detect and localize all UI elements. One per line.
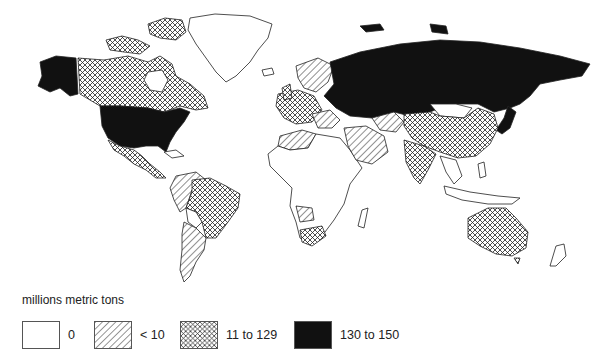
legend-label: 130 to 150	[340, 328, 399, 342]
region-greenland	[188, 14, 272, 82]
region-philippines	[478, 162, 486, 178]
swatch-solid-black	[294, 321, 332, 349]
region-argentina-chile	[180, 222, 206, 282]
region-caribbean	[164, 150, 184, 158]
region-canada-arctic	[148, 18, 186, 40]
swatch-crosshatch	[180, 321, 218, 349]
region-alaska	[38, 56, 78, 96]
region-australia	[468, 208, 528, 256]
region-southern-europe	[312, 110, 340, 128]
region-indonesia	[444, 186, 520, 204]
world-map	[0, 0, 606, 290]
region-uk	[282, 84, 292, 100]
region-south-africa	[300, 226, 326, 246]
region-madagascar	[358, 208, 368, 228]
legend-label: < 10	[140, 328, 165, 342]
legend-label: 11 to 129	[226, 328, 277, 342]
swatch-diagonal-hatch	[94, 321, 132, 349]
region-tasmania	[514, 258, 520, 264]
legend-title: millions metric tons	[22, 293, 124, 307]
region-russian-arctic-islands-2	[430, 24, 448, 34]
region-russian-arctic-islands	[360, 24, 384, 32]
region-new-zealand	[550, 244, 566, 266]
region-scandinavia	[296, 58, 334, 92]
region-iceland	[262, 68, 274, 76]
swatch-blank	[22, 321, 60, 349]
legend-label: 0	[68, 328, 75, 342]
region-canada-arctic-2	[106, 36, 150, 54]
region-canada	[78, 56, 208, 112]
region-southeast-asia	[440, 156, 462, 184]
